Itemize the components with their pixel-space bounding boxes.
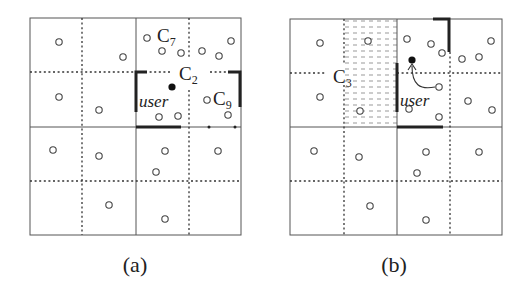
thick-boundary-segments — [397, 19, 449, 127]
label-c9: C9 — [213, 88, 232, 112]
user-location-dot — [408, 56, 415, 63]
shaded-region-c3 — [344, 19, 397, 127]
panel-b: C3 user — [290, 19, 502, 235]
user-location-dot — [168, 83, 175, 90]
caption-b: (b) — [381, 252, 407, 278]
caption-a: (a) — [123, 252, 147, 278]
panel-a: C7 C2 C9 user — [30, 18, 241, 235]
data-objects — [311, 36, 495, 223]
figure-canvas: C7 C2 C9 user — [0, 0, 526, 298]
label-user: user — [139, 92, 169, 111]
label-c7: C7 — [157, 25, 176, 49]
label-user: user — [400, 91, 430, 110]
label-c2: C2 — [179, 63, 198, 87]
